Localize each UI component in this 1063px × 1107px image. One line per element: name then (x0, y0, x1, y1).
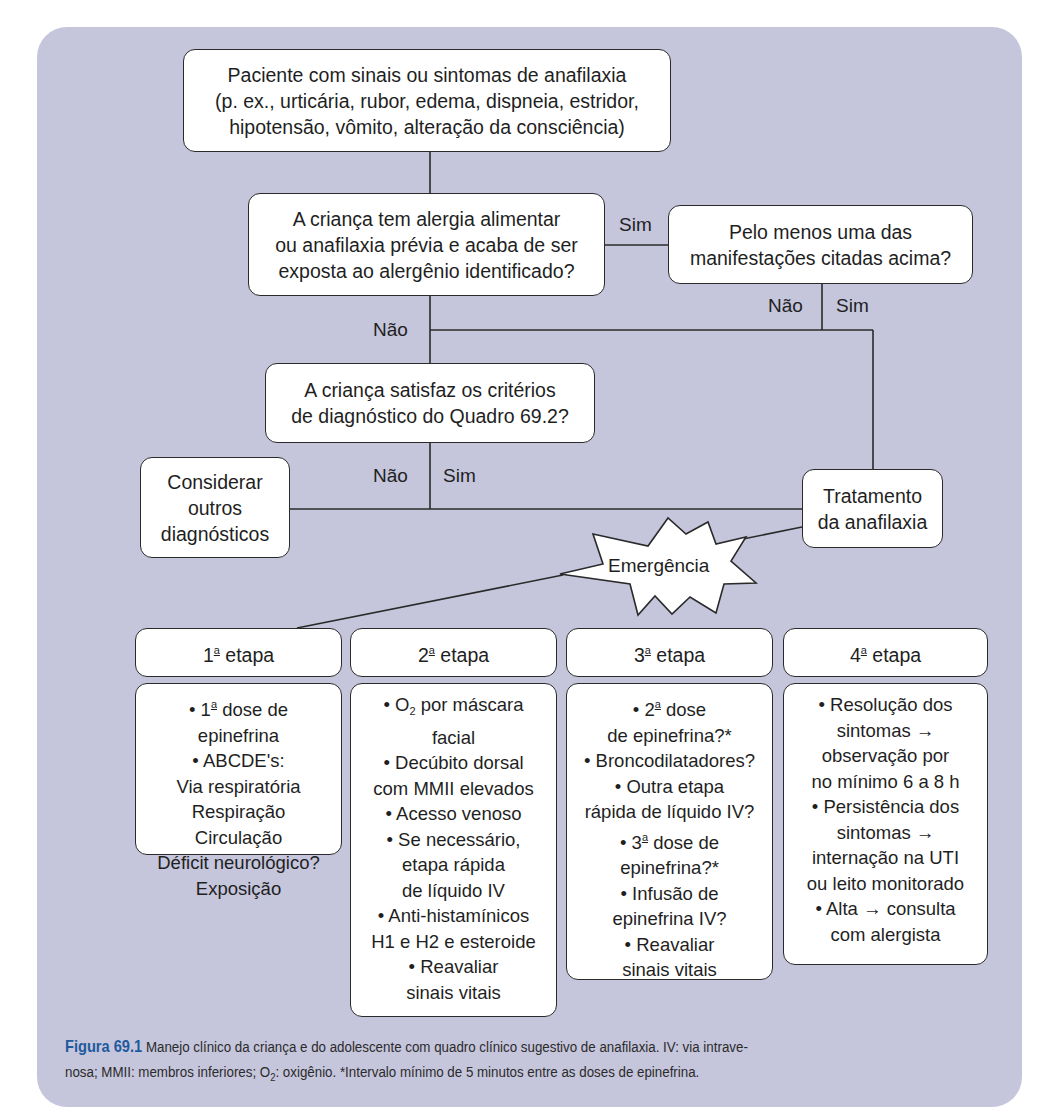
stage-1-item: Respiração (192, 799, 286, 825)
stage-3-item: • 3a dose de (620, 825, 719, 856)
item-text: • Se necessário, (387, 829, 521, 850)
start-line-2: (p. ex., urticária, rubor, edema, dispne… (215, 88, 639, 114)
stage-1-item: Exposição (196, 876, 281, 902)
item-text: • Resolução dos (819, 694, 953, 715)
manifestations-no-label: Não (768, 295, 803, 317)
manif-line-1: Pelo menos uma das (729, 219, 912, 245)
item-text: sintomas → (837, 822, 935, 843)
stage-3-item: • Infusão de (620, 881, 718, 907)
stage-3-body: • 2a dosede epinefrina?*• Broncodilatado… (566, 683, 773, 980)
q2-yes-label: Sim (443, 465, 476, 487)
q1-line-3: exposta ao alergênio identificado? (279, 258, 575, 284)
stage-1-item: • ABCDE's: (192, 748, 284, 774)
stage-3-header: 3a etapa (566, 628, 773, 677)
stage-2-body: • O2 por máscarafacial• Decúbito dorsalc… (350, 683, 557, 1017)
stage-1-item: Via respiratória (176, 774, 300, 800)
stage-4-title: 4a etapa (850, 637, 921, 668)
start-line-3: hipotensão, vômito, alteração da consciê… (229, 114, 625, 140)
item-text: • Broncodilatadores? (584, 750, 755, 771)
stage-4-ordinal-sup: a (861, 644, 867, 656)
stage-4-item: sintomas → (837, 820, 935, 846)
treatment-line-1: Tratamento (823, 483, 922, 509)
other-diagnoses-node: Considerar outros diagnósticos (140, 457, 290, 558)
item-text: sinais vitais (406, 982, 501, 1003)
stage-2-item: • Se necessário, (387, 827, 521, 853)
manifestations-yes-label: Sim (836, 295, 869, 317)
q1-no-label: Não (373, 319, 408, 341)
stage-1-ordinal: 1 (203, 644, 214, 666)
item-text: com MMII elevados (373, 778, 533, 799)
item-text: Respiração (192, 801, 286, 822)
stage-2-item: • Acesso venoso (385, 801, 521, 827)
item-text: • Anti-histamínicos (378, 905, 529, 926)
question-diagnostic-criteria: A criança satisfaz os critérios de diagn… (265, 363, 595, 443)
item-text: • Decúbito dorsal (383, 752, 523, 773)
stage-3-title: 3a etapa (634, 637, 705, 668)
stage-4-item: • Persistência dos (812, 794, 959, 820)
item-text: • Alta → consulta (815, 898, 955, 919)
item-text: • ABCDE's: (192, 750, 284, 771)
caption-text-2a: nosa; MMII: membros inferiores; O (65, 1063, 270, 1080)
other-line-1: Considerar (167, 469, 262, 495)
stage-1-item: Déficit neurológico? (157, 850, 319, 876)
stage-4-ordinal: 4 (850, 644, 861, 666)
stage-4-item: no mínimo 6 a 8 h (811, 769, 959, 795)
item-text: por máscara (416, 694, 524, 715)
stage-4-item: • Resolução dos (819, 692, 953, 718)
start-node: Paciente com sinais ou sintomas de anafi… (183, 49, 671, 152)
stage-4-item: internação na UTI (812, 845, 959, 871)
stage-3-item: • 2a dose (633, 692, 706, 723)
stage-1-item: epinefrina (198, 723, 279, 749)
stage-4-header: 4a etapa (783, 628, 988, 677)
stage-4-item: com alergista (830, 922, 940, 948)
treatment-node: Tratamento da anafilaxia (802, 469, 943, 548)
item-text: dose (661, 699, 706, 720)
stage-2-item: • Anti-histamínicos (378, 903, 529, 929)
stage-4-item: sintomas → (837, 718, 935, 744)
item-text: com alergista (830, 924, 940, 945)
stage-1-header: 1a etapa (135, 628, 342, 677)
stage-3-ordinal: 3 (634, 644, 645, 666)
item-ordinal: 2 (644, 699, 654, 720)
stage-3-item: • Broncodilatadores? (584, 748, 755, 774)
stage-2-item: • O2 por máscara (383, 692, 523, 725)
item-text: sintomas → (837, 720, 935, 741)
stage-3-item: de epinefrina?* (607, 723, 731, 749)
item-text: dose de (648, 832, 719, 853)
q2-line-2: de diagnóstico do Quadro 69.2? (291, 403, 569, 429)
stage-2-item: sinais vitais (406, 980, 501, 1006)
stage-4-item: ou leito monitorado (807, 871, 964, 897)
item-text: etapa rápida (402, 854, 505, 875)
q1-line-2: ou anafilaxia prévia e acaba de ser (275, 232, 577, 258)
caption-text-1: Manejo clínico da criança e do adolescen… (142, 1038, 748, 1055)
item-text: dose de (217, 699, 288, 720)
item-text: no mínimo 6 a 8 h (811, 771, 959, 792)
stage-4-body: • Resolução dossintomas →observação porn… (783, 683, 988, 965)
stage-2-header: 2a etapa (350, 628, 557, 677)
stage-2-title: 2a etapa (418, 637, 489, 668)
stage-3-item: • Reavaliar (625, 932, 715, 958)
stage-2-title-text: etapa (440, 644, 489, 666)
stage-2-item: com MMII elevados (373, 776, 533, 802)
treatment-line-2: da anafilaxia (818, 509, 928, 535)
stage-1-item: • 1a dose de (189, 692, 288, 723)
item-text: • Reavaliar (409, 956, 499, 977)
item-prefix: • O (383, 694, 409, 715)
item-text: Exposição (196, 878, 281, 899)
start-line-1: Paciente com sinais ou sintomas de anafi… (228, 62, 627, 88)
stage-2-item: facial (432, 725, 475, 751)
caption-line-2: nosa; MMII: membros inferiores; O2: oxig… (65, 1059, 1020, 1090)
stage-2-ordinal: 2 (418, 644, 429, 666)
item-prefix: • (189, 699, 201, 720)
caption-text-2b: : oxigênio. *Intervalo mínimo de 5 minut… (275, 1063, 699, 1080)
item-text: sinais vitais (622, 959, 717, 980)
stage-3-ordinal-sup: a (645, 644, 651, 656)
stage-3-item: epinefrina IV? (612, 906, 726, 932)
stage-1-ordinal-sup: a (214, 644, 220, 656)
stage-2-item: • Decúbito dorsal (383, 750, 523, 776)
stage-3-item: • Outra etapa (615, 774, 724, 800)
emergency-label: Emergência (608, 555, 709, 577)
item-text: de epinefrina?* (607, 725, 731, 746)
q2-line-1: A criança satisfaz os critérios (304, 377, 555, 403)
item-prefix: • (620, 832, 632, 853)
